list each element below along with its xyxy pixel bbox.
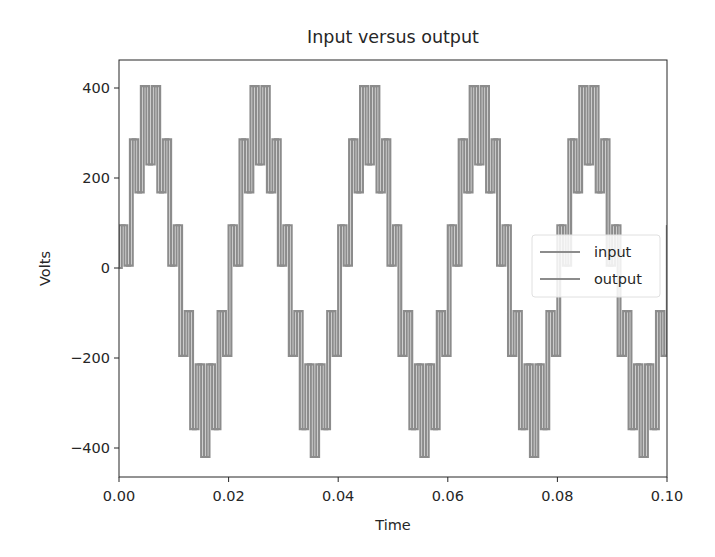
y-tick-label: 0 — [101, 260, 110, 276]
x-tick-label: 0.10 — [651, 488, 683, 504]
x-axis-label: Time — [374, 517, 411, 533]
x-tick-label: 0.00 — [103, 488, 135, 504]
y-axis-label: Volts — [37, 251, 53, 286]
chart-canvas: 0.000.020.040.060.080.104002000−200−400T… — [0, 0, 715, 557]
x-tick-label: 0.08 — [541, 488, 573, 504]
legend-label-output: output — [594, 271, 642, 287]
x-tick-label: 0.02 — [212, 488, 244, 504]
legend: inputoutput — [532, 235, 660, 297]
y-tick-label: −400 — [70, 440, 110, 456]
x-tick-label: 0.04 — [322, 488, 354, 504]
x-tick-label: 0.06 — [432, 488, 464, 504]
y-tick-label: −200 — [70, 350, 110, 366]
y-tick-label: 200 — [82, 170, 110, 186]
y-tick-label: 400 — [82, 80, 110, 96]
legend-label-input: input — [594, 244, 632, 260]
